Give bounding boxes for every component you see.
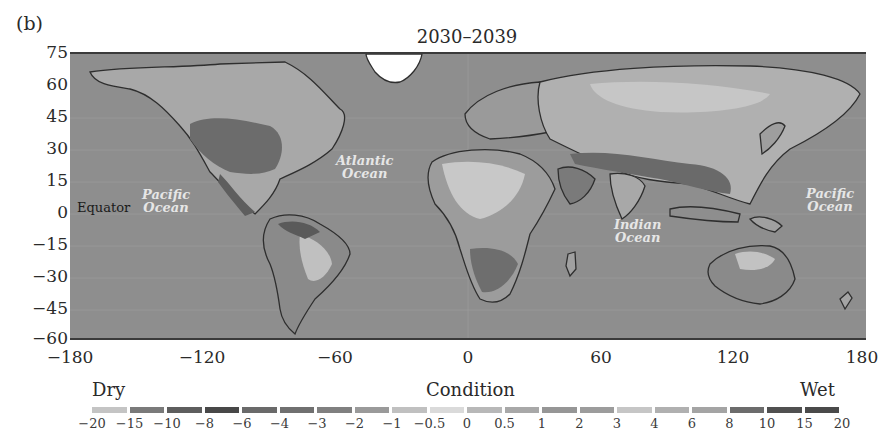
legend-tick: −20 xyxy=(78,416,105,431)
legend-swatch xyxy=(580,407,615,413)
legend-tick: −8 xyxy=(195,416,214,431)
legend-swatch xyxy=(430,407,465,413)
legend-swatch xyxy=(280,407,315,413)
legend-tick: −0.5 xyxy=(414,416,446,431)
pacific-ocean-east-label: Pacific Ocean xyxy=(806,187,854,213)
legend-tick: 0 xyxy=(463,416,471,431)
legend-tick: 8 xyxy=(725,416,733,431)
legend-title: Condition xyxy=(426,379,515,400)
drought-map: Pacific Ocean Atlantic Ocean Indian Ocea… xyxy=(70,52,866,340)
y-tick: 45 xyxy=(46,106,68,126)
legend-tick: 6 xyxy=(688,416,696,431)
legend-swatch xyxy=(355,407,390,413)
legend-swatch xyxy=(242,407,277,413)
legend-swatch xyxy=(317,407,352,413)
equator-label: Equator xyxy=(77,200,130,215)
x-tick: 180 xyxy=(846,347,878,367)
legend-tick: −15 xyxy=(116,416,143,431)
legend-tick: 4 xyxy=(650,416,658,431)
label-line: Ocean xyxy=(342,166,387,181)
legend-swatch xyxy=(505,407,540,413)
legend-tick: 2 xyxy=(575,416,583,431)
legend-tick: −1 xyxy=(382,416,401,431)
legend-tick-labels: −20−15−10−8−6−4−3−2−1−0.500.512346810152… xyxy=(0,416,894,436)
map-title: 2030–2039 xyxy=(0,26,894,47)
legend-color-bar xyxy=(92,407,839,413)
legend-swatch xyxy=(655,407,690,413)
y-tick: −30 xyxy=(32,266,68,286)
y-tick: 60 xyxy=(46,74,68,94)
indian-ocean-label: Indian Ocean xyxy=(614,218,661,244)
legend-tick: 20 xyxy=(834,416,851,431)
x-tick: −120 xyxy=(179,347,226,367)
legend-tick: −6 xyxy=(232,416,251,431)
legend-wet-label: Wet xyxy=(800,379,835,400)
legend-tick: −4 xyxy=(270,416,289,431)
legend-tick: −2 xyxy=(345,416,364,431)
pacific-ocean-west-label: Pacific Ocean xyxy=(142,188,190,214)
x-tick: 60 xyxy=(590,347,612,367)
y-tick: −45 xyxy=(32,298,68,318)
y-tick: 15 xyxy=(46,170,68,190)
legend-tick: −10 xyxy=(153,416,180,431)
legend-swatch xyxy=(130,407,165,413)
label-line: Ocean xyxy=(807,199,852,214)
legend-swatch xyxy=(392,407,427,413)
legend-tick: 1 xyxy=(538,416,546,431)
y-tick: 0 xyxy=(57,202,68,222)
legend-swatch xyxy=(467,407,502,413)
legend-swatch xyxy=(767,407,802,413)
atlantic-ocean-label: Atlantic Ocean xyxy=(336,154,394,180)
legend-swatch xyxy=(617,407,652,413)
legend-tick: 3 xyxy=(613,416,621,431)
legend-tick: 15 xyxy=(796,416,813,431)
legend-tick: −3 xyxy=(307,416,326,431)
label-line: Ocean xyxy=(615,230,660,245)
y-tick: −15 xyxy=(32,234,68,254)
legend-swatch xyxy=(542,407,577,413)
legend-swatch xyxy=(167,407,202,413)
legend-dry-label: Dry xyxy=(92,379,125,400)
x-tick: 120 xyxy=(717,347,749,367)
legend-swatch xyxy=(92,407,127,413)
x-tick: 0 xyxy=(463,347,474,367)
legend-tick: 10 xyxy=(759,416,776,431)
x-tick: −60 xyxy=(317,347,353,367)
legend-tick: 0.5 xyxy=(494,416,515,431)
y-tick: 30 xyxy=(46,138,68,158)
y-tick: 75 xyxy=(46,42,68,62)
y-tick: −60 xyxy=(32,328,68,348)
legend-swatch xyxy=(205,407,240,413)
x-tick: −180 xyxy=(47,347,94,367)
legend-swatch xyxy=(692,407,727,413)
legend-swatch xyxy=(805,407,840,413)
legend-swatch xyxy=(730,407,765,413)
label-line: Ocean xyxy=(143,200,188,215)
